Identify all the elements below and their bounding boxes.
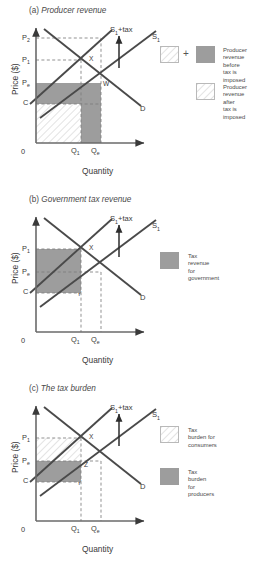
legend-b-label-1: Tax revenue for government [188,253,219,283]
legend-c-label-1: Tax burden for consumers [188,427,217,449]
legend-c-swatch-hatch [160,426,179,443]
legend-a-swatch-hatch-2 [196,83,215,100]
legend-c-swatch-gray [160,468,179,485]
legend-b-swatch-gray [160,252,179,269]
region-a-producer-after-tax [36,104,81,143]
legend-c-label-2: Tax burden for producers [188,469,214,499]
panel-producer-revenue: (a) Producer revenue Price ($) Quantity … [0,0,276,189]
plot-area-b [0,189,180,364]
legend-a-plus-icon: + [183,48,189,59]
region-b-tax-revenue [36,249,81,293]
legend-a-swatch-gray [196,46,215,63]
legend-a-label-2: Producer revenue after tax is imposed [223,84,247,121]
legend-a-swatch-hatch [160,46,179,63]
region-a-producer-before-upper [36,83,101,104]
legend-a-label-1: Producer revenue before tax is imposed [223,47,247,84]
region-a-producer-before-right [81,104,101,143]
plot-area-a [0,0,180,175]
panel-government-tax-revenue: (b) Government tax revenue Price ($) Qua… [0,189,276,378]
plot-area-c [0,378,180,553]
panel-tax-burden: (c) The tax burden Price ($) Quantity 0 … [0,378,276,567]
